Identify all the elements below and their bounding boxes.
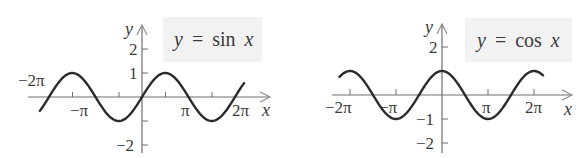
cos-tick-yneg2: −2 (416, 134, 434, 153)
cos-tick-neg2pi: −2π (325, 98, 352, 117)
sin-tick-y2: 2 (129, 40, 138, 59)
sin-tick-pi: π (181, 101, 190, 120)
sin-x-axis-label: x (261, 100, 270, 120)
sin-tick-y1: 1 (129, 64, 138, 83)
sin-graph: y = sin x y x −2π −π π (18, 17, 270, 155)
trig-figure: y = sin x y x −2π −π π (0, 0, 585, 158)
cos-graph: y = cos x y x −2π −π π 2π (325, 17, 572, 153)
sin-tick-neg2pi: −2π (18, 71, 45, 90)
sin-tick-negpi: −π (70, 101, 89, 120)
cos-tick-2pi: 2π (525, 98, 543, 117)
cos-x-axis-label: x (563, 99, 572, 119)
sin-tick-yneg2: −2 (116, 136, 134, 155)
sin-tick-2pi: 2π (232, 101, 250, 120)
sin-y-axis-label: y (123, 19, 133, 39)
cos-tick-pi: π (482, 98, 491, 117)
cos-tick-y2: 2 (429, 38, 438, 57)
cos-y-axis-label: y (423, 17, 433, 37)
cos-tick-yneg1: −1 (416, 110, 434, 129)
